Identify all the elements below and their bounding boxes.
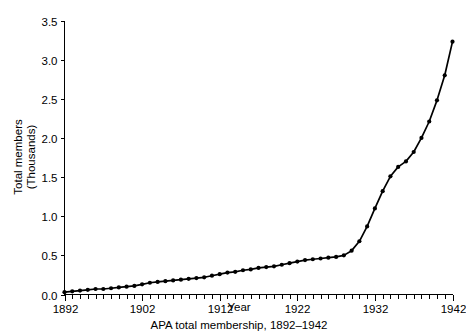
series-data-point [78, 288, 82, 292]
series-markers [62, 40, 454, 295]
y-tick-label: 3.5 [42, 16, 58, 28]
figure-caption: APA total membership, 1892–1942 [151, 319, 328, 331]
x-axis-label: Year [227, 301, 250, 313]
series-data-point [427, 119, 431, 123]
y-axis-ticks [61, 22, 65, 296]
series-data-point [117, 285, 121, 289]
series-data-point [86, 288, 90, 292]
series-data-point [350, 249, 354, 253]
series-data-point [163, 279, 167, 283]
series-data-point [295, 260, 299, 264]
series-data-point [171, 278, 175, 282]
series-data-point [412, 150, 416, 154]
y-tick-label: 1.5 [42, 172, 58, 184]
series-data-point [249, 267, 253, 271]
series-data-point [396, 165, 400, 169]
series-data-point [404, 159, 408, 163]
series-data-point [93, 287, 97, 291]
series-data-point [109, 286, 113, 290]
series-data-point [318, 256, 322, 260]
series-data-point [241, 268, 245, 272]
x-tick-label: 1932 [363, 303, 389, 315]
y-tick-label: 0.5 [42, 250, 58, 262]
y-axis-tick-labels: 0.00.51.01.52.02.53.03.5 [42, 16, 58, 302]
series-data-point [179, 278, 183, 282]
x-axis-group: 189219021912192219321942 [53, 295, 466, 315]
series-data-point [342, 253, 346, 257]
series-data-point [70, 289, 74, 293]
y-tick-label: 3.0 [42, 55, 58, 67]
chart-figure: 0.00.51.01.52.02.53.03.5 189219021912192… [0, 0, 466, 335]
series-data-point [225, 270, 229, 274]
series-data-point [388, 174, 392, 178]
series-data-point [202, 275, 206, 279]
y-tick-label: 2.5 [42, 94, 58, 106]
series-data-point [210, 274, 214, 278]
series-data-point [62, 290, 66, 294]
series-data-point [280, 263, 284, 267]
series-data-point [435, 98, 439, 102]
series-data-point [272, 264, 276, 268]
series-data-point [303, 258, 307, 262]
series-line-apa-membership [65, 42, 453, 293]
series-data-point [450, 40, 454, 44]
series-data-point [365, 224, 369, 228]
x-axis-minor-ticks [66, 295, 454, 299]
y-tick-label: 0.0 [42, 290, 58, 302]
y-axis-label-group: Total members (Thousands) [12, 119, 37, 195]
series-data-point [443, 73, 447, 77]
x-tick-label: 1942 [441, 303, 466, 315]
series-data-point [156, 280, 160, 284]
series-data-point [187, 277, 191, 281]
x-tick-label: 1892 [53, 303, 79, 315]
x-tick-label: 1902 [130, 303, 156, 315]
series-data-point [218, 272, 222, 276]
series-data-point [256, 266, 260, 270]
series-data-point [124, 285, 128, 289]
series-data-point [311, 257, 315, 261]
series-data-point [140, 282, 144, 286]
y-tick-label: 2.0 [42, 133, 58, 145]
series-data-point [326, 256, 330, 260]
x-tick-label: 1922 [285, 303, 311, 315]
series-data-point [334, 255, 338, 259]
y-axis-label-line2: (Thousands) [25, 125, 37, 190]
series-data-point [101, 287, 105, 291]
series-data-point [132, 284, 136, 288]
y-tick-label: 1.0 [42, 211, 58, 223]
series-data-point [357, 239, 361, 243]
series-data-point [373, 206, 377, 210]
series-data-point [148, 281, 152, 285]
data-series-group [62, 40, 454, 295]
series-data-point [264, 265, 268, 269]
y-axis-group: 0.00.51.01.52.02.53.03.5 [42, 16, 65, 302]
series-data-point [287, 261, 291, 265]
series-data-point [419, 136, 423, 140]
x-axis-tick-labels: 189219021912192219321942 [53, 303, 466, 315]
series-data-point [381, 189, 385, 193]
y-axis-label-line1: Total members [12, 119, 24, 195]
line-chart-canvas: 0.00.51.01.52.02.53.03.5 189219021912192… [0, 0, 466, 335]
series-data-point [233, 270, 237, 274]
series-data-point [194, 276, 198, 280]
